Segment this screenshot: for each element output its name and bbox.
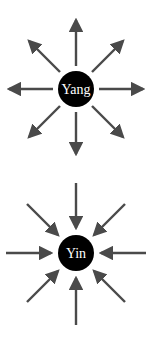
yin-arrow-from-upright-icon <box>94 204 125 235</box>
yang-arrow-downright-icon <box>92 106 123 137</box>
yang-label: Yang <box>62 82 91 97</box>
yin-group: Yin <box>6 183 146 325</box>
yin-arrow-from-downleft-icon <box>27 271 58 302</box>
yang-arrow-upright-icon <box>92 41 123 72</box>
yin-arrow-from-downright-icon <box>94 271 125 302</box>
yin-arrow-from-upleft-icon <box>27 204 58 235</box>
yang-group: Yang <box>9 20 143 154</box>
yin-yang-diagram: Yang Yin <box>0 0 156 343</box>
yang-arrow-upleft-icon <box>29 41 60 72</box>
yang-arrow-downleft-icon <box>29 106 60 137</box>
yin-label: Yin <box>66 246 86 261</box>
